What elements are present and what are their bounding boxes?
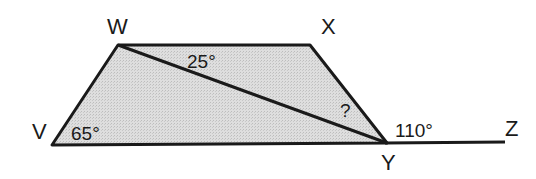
vertex-label-z: Z [505, 116, 518, 141]
angle-label-25: 25° [187, 51, 216, 72]
vertex-label-w: W [107, 14, 128, 39]
vertex-label-x: X [321, 14, 336, 39]
trapezoid-vwxy [52, 45, 387, 145]
extension-yz [385, 142, 505, 143]
angle-label-65: 65° [71, 123, 100, 144]
vertex-label-v: V [32, 119, 47, 144]
vertex-label-y: Y [381, 150, 396, 175]
angle-label-110: 110° [395, 120, 433, 141]
angle-label-unknown: ? [340, 100, 351, 121]
geometry-diagram: W X V Y Z 25° ? 65° 110° [0, 0, 536, 179]
